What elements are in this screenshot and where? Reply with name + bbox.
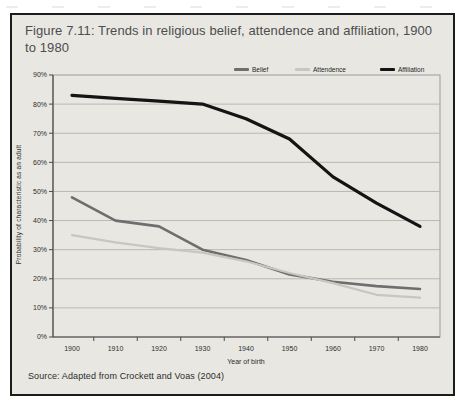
x-tick-label: 1940 xyxy=(238,345,254,352)
chart-canvas: 0%10%20%30%40%50%60%70%80%90%19001910192… xyxy=(12,15,453,394)
x-tick-label: 1950 xyxy=(282,345,298,352)
figure-box: Figure 7.11: Trends in religious belief,… xyxy=(10,13,455,396)
x-tick-label: 1920 xyxy=(151,345,167,352)
y-tick-label: 40% xyxy=(33,217,47,224)
attendence-line xyxy=(72,235,420,298)
y-tick-label: 50% xyxy=(33,188,47,195)
x-tick-label: 1910 xyxy=(108,345,124,352)
y-tick-label: 20% xyxy=(33,275,47,282)
source-note: Source: Adapted from Crockett and Voas (… xyxy=(28,371,224,381)
y-tick-label: 90% xyxy=(33,71,47,78)
page: Figure 7.11: Trends in religious belief,… xyxy=(0,0,463,409)
figure-inner: Figure 7.11: Trends in religious belief,… xyxy=(12,15,453,394)
cropped-text-artifact xyxy=(6,6,457,8)
x-axis-title: Year of birth xyxy=(72,358,420,365)
x-tick-label: 1970 xyxy=(369,345,385,352)
x-tick-label: 1960 xyxy=(325,345,341,352)
y-tick-label: 10% xyxy=(33,304,47,311)
y-axis-title: Probability of characteristic as an adul… xyxy=(15,115,22,295)
x-tick-label: 1900 xyxy=(64,345,80,352)
y-tick-label: 70% xyxy=(33,130,47,137)
y-tick-label: 80% xyxy=(33,101,47,108)
y-tick-label: 0% xyxy=(37,333,47,340)
y-tick-label: 30% xyxy=(33,246,47,253)
y-tick-label: 60% xyxy=(33,159,47,166)
x-tick-label: 1930 xyxy=(195,345,211,352)
affiliation-line xyxy=(72,95,420,226)
x-tick-label: 1980 xyxy=(412,345,428,352)
